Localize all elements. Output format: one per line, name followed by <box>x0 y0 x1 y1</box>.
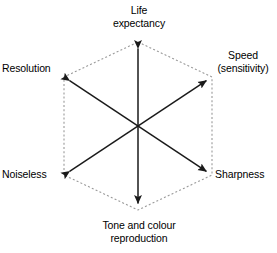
axis-label-sharpness: Sharpness <box>215 168 277 181</box>
axis-label-noiseless: Noiseless <box>2 168 64 181</box>
axis-label-speed-sensitivity: Speed (sensitivity) <box>209 49 277 74</box>
axis-label-life-expectancy: Life expectancy <box>96 4 182 29</box>
axis-label-resolution: Resolution <box>2 62 64 75</box>
hexagon-diagram-graphic <box>0 0 277 253</box>
hexagon-diagram: Life expectancy Speed (sensitivity) Reso… <box>0 0 277 253</box>
axis-label-tone-and-colour-reproduction: Tone and colour reproduction <box>74 219 204 244</box>
